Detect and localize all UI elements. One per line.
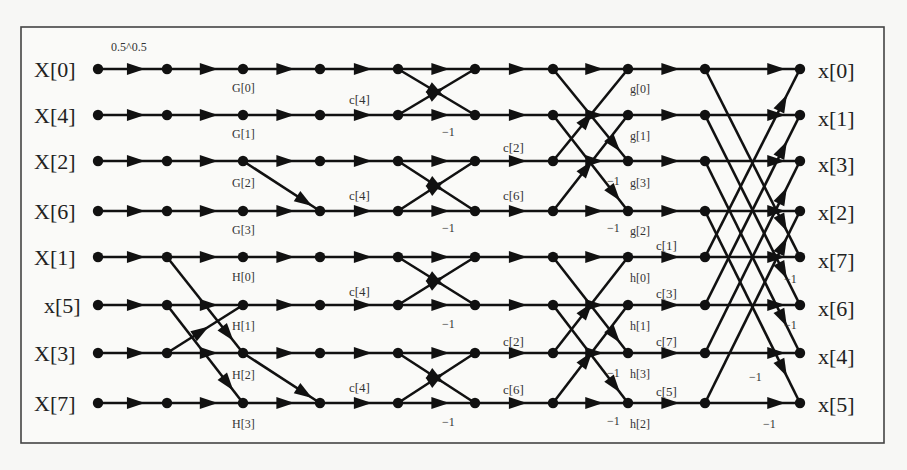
minus-one-label: −1 [442,317,455,331]
node-dot [623,348,633,358]
node-dot [623,64,633,74]
output-label-3: x[2] [818,200,855,225]
node-dot [315,398,325,408]
node-dot [238,156,248,166]
node-dot [623,252,633,262]
node-dot [315,64,325,74]
label-G1: G[1] [232,127,255,141]
minus-one-label: −1 [607,221,620,235]
node-dot [795,156,805,166]
node-dot [548,206,558,216]
minus-one-label: −1 [607,414,620,428]
label-H1: H[1] [232,319,255,333]
node-dot [470,206,480,216]
label-H3: H[3] [232,417,255,431]
node-dot [623,206,633,216]
node-dot [315,110,325,120]
node-dot [238,110,248,120]
node-dot [700,156,710,166]
node-dot [623,300,633,310]
minus-one-label: −1 [763,417,776,431]
node-dot [162,64,172,74]
node-dot [93,398,103,408]
node-dot [700,206,710,216]
node-dot [548,398,558,408]
node-dot [162,206,172,216]
coef-c4-a: c[4] [349,92,370,107]
input-label-3: X[6] [34,199,76,224]
node-dot [93,156,103,166]
node-dot [315,252,325,262]
coef-c4-b: c[4] [349,188,370,203]
minus-one-label: −1 [607,366,620,380]
node-dot [700,64,710,74]
node-dot [470,64,480,74]
label-h2: h[2] [630,417,650,431]
label-h3: h[3] [630,367,650,381]
node-dot [238,348,248,358]
input-label-4: X[1] [34,245,76,270]
input-label-6: X[3] [34,341,76,366]
node-dot [548,110,558,120]
minus-one-label: −1 [784,272,797,286]
node-dot [238,206,248,216]
coef-c1: c[1] [656,238,677,253]
node-dot [93,110,103,120]
fft-flow-graph: X[0] X[4] X[2] X[6] X[1] x[5] X[3] X[7] … [0,0,907,470]
minus-one-label: −1 [442,221,455,235]
node-dot [700,398,710,408]
coef-c3: c[3] [656,286,677,301]
node-dot [470,300,480,310]
node-dot [795,252,805,262]
node-dot [393,300,403,310]
node-dot [162,156,172,166]
node-dot [548,348,558,358]
node-dot [162,300,172,310]
node-dot [700,300,710,310]
node-dot [795,206,805,216]
input-label-7: X[7] [34,391,76,416]
node-dot [93,206,103,216]
node-dot [393,398,403,408]
node-dot [238,64,248,74]
output-label-4: x[7] [818,248,855,273]
node-dot [548,64,558,74]
output-label-0: x[0] [818,58,855,83]
coef-c5: c[5] [656,384,677,399]
node-dot [393,348,403,358]
node-dot [700,110,710,120]
node-dot [623,110,633,120]
node-dot [393,110,403,120]
node-dot [700,348,710,358]
node-dot [795,398,805,408]
input-label-0: X[0] [34,57,76,82]
node-dot [795,110,805,120]
input-label-5: x[5] [44,293,81,318]
node-dot [548,252,558,262]
label-g2: g[2] [630,224,650,238]
coef-c7: c[7] [656,334,677,349]
coef-c2-a: c[2] [503,140,524,155]
label-g1: g[1] [630,129,650,143]
output-label-2: x[3] [818,152,855,177]
node-dot [93,300,103,310]
node-dot [795,64,805,74]
minus-one-label: −1 [607,174,620,188]
label-G3: G[3] [232,223,255,237]
node-dot [548,300,558,310]
node-dot [393,206,403,216]
node-dot [393,64,403,74]
node-dot [700,252,710,262]
output-label-6: x[4] [818,344,855,369]
node-dot [548,156,558,166]
minus-one-label: −1 [784,318,797,332]
node-dot [315,348,325,358]
coef-c4-d: c[4] [349,380,370,395]
node-dot [162,252,172,262]
output-label-7: x[5] [818,392,855,417]
label-G2: G[2] [232,176,255,190]
scale-label: 0.5^0.5 [111,40,147,54]
coef-c6-a: c[6] [503,188,524,203]
node-dot [393,156,403,166]
coef-c6-b: c[6] [503,382,524,397]
